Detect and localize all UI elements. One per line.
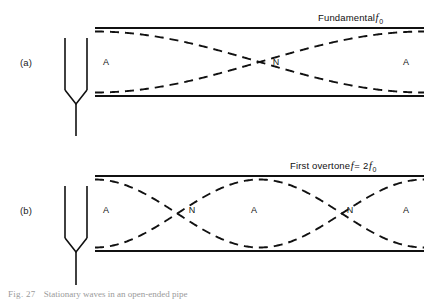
- label-node-b-1: N: [189, 205, 196, 215]
- mode-label-prefix-a: Fundamental: [318, 12, 375, 23]
- label-antinode-a-right: A: [403, 57, 409, 67]
- mode-label-first-overtone: First overtonef=2f0: [290, 160, 377, 173]
- label-node-a-center: N: [273, 57, 280, 67]
- label-node-b-2: N: [347, 205, 354, 215]
- label-antinode-a-left: A: [103, 57, 109, 67]
- figure-caption: Fig. 27 Stationary waves in an open-ende…: [8, 289, 188, 299]
- label-antinode-b-2: A: [251, 205, 257, 215]
- wave-envelope-lower-0: [95, 32, 424, 93]
- figure-caption-text: Stationary waves in an open-ended pipe: [38, 289, 188, 299]
- mode-label-fundamental: Fundamentalf0: [318, 12, 383, 25]
- fork-bend-1: [65, 238, 87, 252]
- mode-subscript-b: 0: [372, 166, 376, 173]
- wave-envelope-upper-1: [95, 180, 424, 248]
- mode-subscript-a: 0: [379, 18, 383, 25]
- panel-tag-b: (b): [20, 205, 32, 216]
- figure-root: (a) Fundamentalf0 A N A (b) First overto…: [0, 0, 424, 301]
- fork-bend-0: [65, 90, 87, 104]
- label-antinode-b-1: A: [103, 205, 109, 215]
- wave-envelope-lower-1: [95, 180, 424, 248]
- figure-caption-number: Fig. 27: [8, 289, 36, 299]
- panel-tag-a: (a): [20, 57, 32, 68]
- label-antinode-b-3: A: [403, 205, 409, 215]
- mode-label-prefix-b: First overtone: [290, 160, 350, 171]
- figure-canvas: [0, 0, 424, 301]
